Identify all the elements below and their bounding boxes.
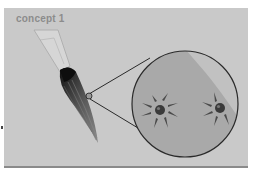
- magnified-view: [132, 50, 240, 157]
- brush-bristles: [60, 67, 98, 143]
- brush-magnification-diagram: [0, 0, 255, 171]
- zoom-point-circle: [86, 93, 92, 99]
- brush-handle: [34, 30, 70, 72]
